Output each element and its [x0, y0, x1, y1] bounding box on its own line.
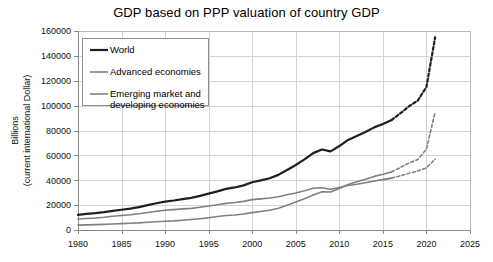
y-axis-title-line1: Billions: [10, 116, 20, 145]
legend-label-1: World: [110, 44, 135, 55]
legend-label-3-line2: developing economies: [110, 99, 205, 110]
x-axis-tick-labels: 1980198519901995200020052010201520202025: [68, 239, 480, 249]
y-axis-title-line2: (current international Dollar): [22, 75, 32, 187]
y-tick-label: 160000: [41, 26, 71, 36]
chart-legend: WorldAdvanced economiesEmerging market a…: [83, 39, 209, 111]
y-tick-label: 80000: [46, 126, 71, 136]
series-forecast-world: [392, 37, 436, 120]
y-tick-label: 40000: [46, 176, 71, 186]
legend-label-2: Advanced economies: [110, 66, 201, 77]
chart-canvas: 0200004000060000800001000001200001400001…: [0, 0, 493, 262]
gdp-ppp-line-chart: GDP based on PPP valuation of country GD…: [0, 0, 493, 262]
x-tick-label: 2010: [329, 239, 349, 249]
x-tick-label: 2025: [460, 239, 480, 249]
legend-label-3: Emerging market and: [110, 88, 201, 99]
x-tick-label: 1990: [155, 239, 175, 249]
x-tick-label: 1985: [112, 239, 132, 249]
x-tick-label: 2005: [286, 239, 306, 249]
series-line-world: [78, 120, 392, 215]
series-forecast-emerging-market-and-developing-economies: [392, 112, 436, 172]
y-tick-label: 120000: [41, 76, 71, 86]
x-tick-label: 2000: [242, 239, 262, 249]
y-axis-title: Billions(current international Dollar): [10, 75, 32, 187]
y-tick-label: 0: [66, 225, 71, 235]
y-tick-label: 100000: [41, 101, 71, 111]
y-axis-tick-labels: 0200004000060000800001000001200001400001…: [41, 26, 71, 235]
x-tick-label: 1995: [199, 239, 219, 249]
x-tick-label: 2020: [416, 239, 436, 249]
series-line-emerging-market-and-developing-economies: [78, 172, 392, 225]
y-tick-label: 140000: [41, 51, 71, 61]
series-line-advanced-economies: [78, 178, 392, 219]
y-tick-label: 20000: [46, 200, 71, 210]
x-tick-label: 2015: [373, 239, 393, 249]
y-tick-label: 60000: [46, 151, 71, 161]
x-tick-label: 1980: [68, 239, 88, 249]
